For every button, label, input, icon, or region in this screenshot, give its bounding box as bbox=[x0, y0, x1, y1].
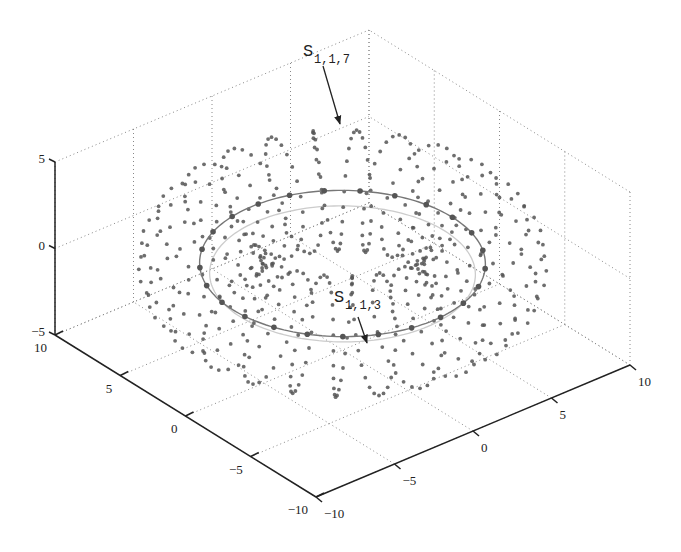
svg-text:−5: −5 bbox=[31, 324, 45, 339]
svg-text:5: 5 bbox=[560, 407, 567, 422]
svg-text:1,1,7: 1,1,7 bbox=[314, 53, 350, 67]
svg-text:−5: −5 bbox=[229, 462, 243, 477]
svg-text:−10: −10 bbox=[324, 506, 344, 521]
svg-text:0: 0 bbox=[481, 440, 488, 455]
svg-text:5: 5 bbox=[106, 381, 113, 396]
svg-text:−10: −10 bbox=[288, 502, 308, 517]
svg-text:10: 10 bbox=[638, 374, 651, 389]
axes bbox=[49, 159, 636, 502]
svg-text:5: 5 bbox=[39, 151, 46, 166]
grid-lines bbox=[55, 30, 630, 497]
svg-text:0: 0 bbox=[171, 421, 178, 436]
svg-text:−5: −5 bbox=[403, 473, 417, 488]
torus-helix-3d-plot: −505−10−50510−10−50510 S1,1,7S1,1,3 bbox=[0, 0, 681, 552]
svg-text:0: 0 bbox=[39, 238, 46, 253]
annotation-label-0: S1,1,7 bbox=[303, 42, 350, 124]
svg-text:10: 10 bbox=[34, 340, 47, 355]
helix-points bbox=[137, 128, 548, 399]
svg-text:S: S bbox=[334, 288, 344, 307]
svg-text:1,1,3: 1,1,3 bbox=[345, 299, 381, 313]
svg-text:S: S bbox=[303, 42, 313, 61]
